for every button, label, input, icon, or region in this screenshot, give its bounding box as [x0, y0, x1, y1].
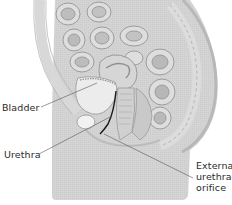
orifice-label-line-3: orifice — [196, 182, 232, 193]
bladder-label: Bladder — [2, 102, 40, 113]
pubic-bone — [77, 115, 95, 129]
anatomy-diagram: Bladder Urethra External urethral orific… — [0, 0, 232, 205]
urethra-label: Urethra — [4, 149, 41, 160]
external-urethral-orifice-label: External urethral orifice — [196, 160, 232, 193]
orifice-label-line-2: urethral — [196, 171, 232, 182]
orifice-label-line-1: External — [196, 160, 232, 171]
